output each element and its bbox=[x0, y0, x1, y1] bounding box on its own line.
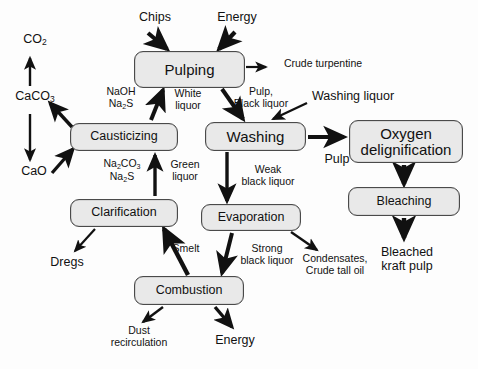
node-label-clarification: Clarification bbox=[87, 206, 160, 219]
node-label-washing: Washing bbox=[223, 129, 289, 145]
label-pulp: Pulp bbox=[316, 152, 358, 166]
node-label-combustion: Combustion bbox=[152, 284, 227, 297]
node-label-evaporation: Evaporation bbox=[214, 211, 289, 224]
label-weak-black-liquor: Weakblack liquor bbox=[232, 164, 304, 188]
arrow-combustion-to-dust bbox=[143, 307, 163, 322]
label-na2co3-na2s: Na2CO3Na2S bbox=[95, 158, 149, 183]
label-cao: CaO bbox=[9, 164, 59, 178]
node-evaporation[interactable]: Evaporation bbox=[201, 204, 301, 231]
node-causticizing[interactable]: Causticizing bbox=[70, 123, 178, 151]
label-energy-top: Energy bbox=[206, 10, 268, 24]
arrow-causticizing-to-pulping bbox=[151, 90, 163, 120]
label-pulp-black-liquor: Pulp,Black liquor bbox=[226, 86, 296, 110]
label-caco3: CaCO3 bbox=[3, 89, 67, 104]
arrow-chips-to-pulping bbox=[148, 33, 167, 49]
node-label-bleaching: Bleaching bbox=[373, 195, 436, 208]
node-bleaching[interactable]: Bleaching bbox=[348, 187, 460, 216]
label-condensates: Condensates,Crude tall oil bbox=[293, 253, 377, 277]
label-washing-liquor: Washing liquor bbox=[307, 89, 399, 103]
node-pulping[interactable]: Pulping bbox=[134, 51, 245, 88]
label-dregs: Dregs bbox=[43, 255, 91, 269]
label-smelt: Smelt bbox=[165, 243, 207, 255]
arrow-causticizing-to-caco3 bbox=[50, 103, 72, 127]
label-dust-recirculation: Dustrecirculation bbox=[97, 325, 181, 349]
label-white-liquor: Whiteliquor bbox=[167, 88, 209, 112]
label-chips: Chips bbox=[127, 10, 183, 24]
node-label-pulping: Pulping bbox=[160, 62, 218, 78]
arrow-clarification-to-dregs bbox=[75, 229, 95, 251]
node-washing[interactable]: Washing bbox=[205, 122, 306, 151]
node-label-oxygen: Oxygendelignification bbox=[357, 126, 456, 158]
label-co2: CO2 bbox=[10, 32, 60, 47]
label-bleached-kraft-pulp: Bleachedkraft pulp bbox=[367, 245, 447, 273]
node-label-causticizing: Causticizing bbox=[86, 130, 161, 143]
arrow-combustion-to-energy bbox=[215, 307, 232, 327]
node-combustion[interactable]: Combustion bbox=[134, 276, 244, 305]
node-clarification[interactable]: Clarification bbox=[70, 199, 178, 227]
label-naoh-na2s: NaOHNa2S bbox=[97, 86, 145, 110]
process-flow-diagram: PulpingCausticizingWashingOxygendelignif… bbox=[0, 0, 478, 369]
label-energy-bottom: Energy bbox=[204, 333, 266, 347]
node-oxygen[interactable]: Oxygendelignification bbox=[349, 120, 463, 163]
label-crude-turpentine: Crude turpentine bbox=[271, 58, 375, 70]
arrow-energy-to-pulping bbox=[219, 32, 235, 49]
label-green-liquor: Greenliquor bbox=[163, 159, 207, 183]
